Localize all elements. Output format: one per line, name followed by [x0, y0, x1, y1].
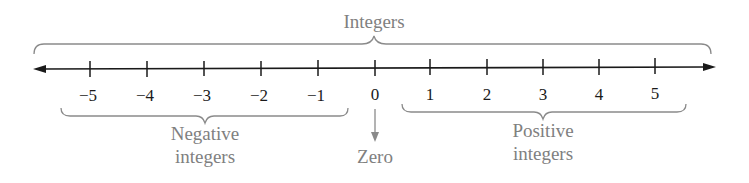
tick-label: −1 — [307, 86, 325, 105]
integer-number-line-diagram: Integers −5 −4 −3 −2 −1 0 1 2 3 4 5 Nega… — [0, 0, 749, 183]
zero-label: Zero — [357, 146, 393, 167]
left-arrow-icon — [33, 65, 46, 73]
tick-label: −2 — [250, 86, 268, 105]
integers-title: Integers — [343, 11, 404, 32]
positive-integers-brace — [402, 104, 686, 119]
positive-integers-label-line1: Positive — [512, 120, 573, 141]
tick-label: 5 — [651, 84, 660, 103]
tick-label: 3 — [539, 85, 548, 104]
tick-label: 2 — [483, 85, 492, 104]
negative-integers-brace — [61, 108, 348, 123]
tick-label: 4 — [595, 85, 604, 104]
tick-label: 1 — [426, 85, 435, 104]
right-arrow-icon — [703, 63, 716, 71]
positive-integers-label-line2: integers — [513, 143, 573, 164]
negative-integers-label-line2: integers — [175, 146, 235, 167]
zero-arrow-icon — [371, 132, 379, 142]
tick-label: −4 — [136, 86, 155, 105]
number-line-axis — [42, 67, 706, 69]
tick-label: 0 — [371, 85, 380, 104]
tick-label: −5 — [79, 86, 97, 105]
tick-label: −3 — [193, 86, 211, 105]
negative-integers-label-line1: Negative — [171, 123, 240, 144]
integers-brace — [34, 36, 711, 54]
